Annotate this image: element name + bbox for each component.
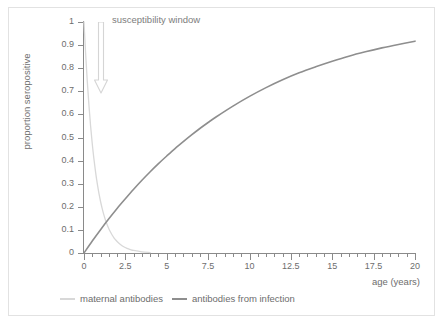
legend-label: maternal antibodies [80,294,163,304]
x-tick-label: 7.5 [188,262,228,271]
x-tick-minor [117,254,118,257]
y-tick [78,230,83,231]
x-tick-major [125,254,126,260]
x-tick-minor [299,254,300,257]
x-tick-minor [216,254,217,257]
y-tick-label: 0.6 [44,109,74,118]
y-tick [78,114,83,115]
chart-figure: 00.10.20.30.40.50.60.70.80.91 02.557.510… [0,0,444,331]
y-axis-title: proportion seropositive [21,32,32,172]
x-tick-minor [192,254,193,257]
x-tick-minor [382,254,383,257]
x-tick-major [250,254,251,260]
y-tick [78,68,83,69]
legend-item[interactable]: maternal antibodies [60,294,163,304]
x-tick-minor [341,254,342,257]
x-tick-minor [365,254,366,257]
x-tick-minor [307,254,308,257]
legend-label: antibodies from infection [192,294,295,304]
x-tick-major [208,254,209,260]
x-tick-minor [225,254,226,257]
susceptibility-window-annotation: susceptibility window [112,14,200,25]
x-tick-minor [316,254,317,257]
x-tick-minor [101,254,102,257]
x-tick-minor [258,254,259,257]
legend-line-swatch [60,298,75,300]
x-tick-major [84,254,85,260]
x-tick-minor [175,254,176,257]
y-tick-label: 0 [44,248,74,257]
x-tick-minor [349,254,350,257]
y-tick [78,253,83,254]
x-tick-minor [324,254,325,257]
x-tick-major [332,254,333,260]
x-tick-major [291,254,292,260]
y-tick-label: 0.1 [44,225,74,234]
x-tick-minor [407,254,408,257]
x-tick-minor [158,254,159,257]
legend-line-swatch [172,298,187,300]
y-tick-label: 0.3 [44,179,74,188]
x-tick-major [374,254,375,260]
x-tick-minor [109,254,110,257]
y-tick [78,138,83,139]
y-tick [78,161,83,162]
x-tick-minor [200,254,201,257]
y-tick [78,184,83,185]
y-tick [78,91,83,92]
x-tick-label: 12.5 [271,262,311,271]
x-tick-minor [183,254,184,257]
x-tick-minor [142,254,143,257]
y-axis-line [83,21,84,254]
x-tick-label: 2.5 [105,262,145,271]
x-tick-minor [266,254,267,257]
x-tick-label: 10 [230,262,270,271]
y-tick-label: 0.2 [44,202,74,211]
x-tick-minor [150,254,151,257]
y-tick-label: 1 [44,17,74,26]
x-tick-label: 0 [64,262,104,271]
y-tick [78,22,83,23]
x-tick-label: 15 [312,262,352,271]
x-tick-minor [134,254,135,257]
y-tick-label: 0.8 [44,63,74,72]
y-tick-label: 0.9 [44,40,74,49]
x-axis-title: age (years) [330,276,420,287]
x-tick-major [415,254,416,260]
x-tick-minor [92,254,93,257]
chart-legend: maternal antibodiesantibodies from infec… [60,294,295,304]
x-tick-label: 5 [147,262,187,271]
y-tick [78,207,83,208]
legend-item[interactable]: antibodies from infection [172,294,295,304]
x-tick-major [167,254,168,260]
x-tick-minor [398,254,399,257]
x-tick-minor [233,254,234,257]
y-tick-label: 0.5 [44,133,74,142]
x-tick-label: 17.5 [354,262,394,271]
x-tick-minor [274,254,275,257]
x-tick-minor [390,254,391,257]
x-tick-label: 20 [395,262,435,271]
y-tick-label: 0.4 [44,156,74,165]
y-tick-label: 0.7 [44,86,74,95]
x-tick-minor [283,254,284,257]
y-tick [78,45,83,46]
x-tick-minor [241,254,242,257]
x-tick-minor [357,254,358,257]
down-arrow-icon [93,22,109,96]
